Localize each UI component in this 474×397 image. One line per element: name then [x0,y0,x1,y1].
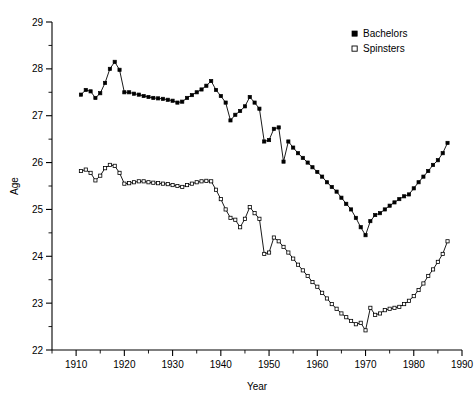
data-point [142,180,145,183]
data-point [229,119,232,122]
data-point [325,297,328,300]
data-point [311,166,314,169]
data-point [378,312,381,315]
data-point [383,208,386,211]
data-point [374,213,377,216]
data-point [292,257,295,260]
data-point [378,212,381,215]
data-point [84,168,87,171]
data-point [272,236,275,239]
data-point [200,88,203,91]
data-point [301,156,304,159]
data-point [388,204,391,207]
data-point [316,285,319,288]
data-point [258,107,261,110]
data-point [190,94,193,97]
data-point [446,240,449,243]
data-point [157,97,160,100]
y-tick-label: 27 [32,110,44,121]
data-point [263,252,266,255]
data-point [205,84,208,87]
data-point [123,91,126,94]
data-point [103,167,106,170]
x-tick-label: 1990 [451,359,474,370]
data-point [128,182,131,185]
data-point [403,195,406,198]
data-point [181,100,184,103]
data-point [210,180,213,183]
chart-container: 2223242526272829 19101920193019401950196… [0,0,474,397]
data-point [306,161,309,164]
data-point [239,226,242,229]
data-point [282,160,285,163]
data-point [152,96,155,99]
data-point [123,182,126,185]
data-point [364,234,367,237]
data-point [354,323,357,326]
data-point [321,175,324,178]
data-point [224,208,227,211]
x-tick-label: 1940 [210,359,233,370]
data-point [277,126,280,129]
data-point [359,226,362,229]
data-point [176,184,179,187]
data-point [195,91,198,94]
data-point [103,81,106,84]
data-point [359,321,362,324]
data-point [292,146,295,149]
data-point [296,152,299,155]
data-point [417,288,420,291]
data-point [287,251,290,254]
data-point [181,185,184,188]
data-point [330,185,333,188]
x-axis-title: Year [247,381,268,392]
legend-label-bachelors: Bachelors [363,28,407,39]
data-point [229,216,232,219]
chart-background [0,0,474,397]
data-point [157,182,160,185]
data-point [118,68,121,71]
data-point [374,313,377,316]
data-point [147,181,150,184]
data-point [267,251,270,254]
data-point [248,95,251,98]
data-point [349,319,352,322]
data-point [79,93,82,96]
data-point [335,190,338,193]
data-point [441,152,444,155]
y-axis-title: Age [9,177,20,195]
x-tick-label: 1960 [306,359,329,370]
data-point [234,218,237,221]
data-point [147,95,150,98]
data-point [185,96,188,99]
data-point [243,105,246,108]
data-point [176,101,179,104]
data-point [108,67,111,70]
data-point [161,182,164,185]
data-point [219,94,222,97]
data-point [89,171,92,174]
data-point [185,183,188,186]
x-tick-label: 1930 [161,359,184,370]
data-point [407,193,410,196]
data-point [436,159,439,162]
y-tick-label: 26 [32,157,44,168]
data-point [417,181,420,184]
data-point [364,329,367,332]
data-point [205,179,208,182]
data-point [369,220,372,223]
data-point [142,94,145,97]
data-point [427,169,430,172]
data-point [200,180,203,183]
data-point [398,198,401,201]
y-tick-label: 23 [32,298,44,309]
x-tick-label: 1920 [113,359,136,370]
data-point [94,96,97,99]
line-chart: 2223242526272829 19101920193019401950196… [0,0,474,397]
y-tick-label: 28 [32,63,44,74]
legend-marker-bachelors [352,31,357,36]
x-tick-label: 1970 [354,359,377,370]
data-point [354,216,357,219]
data-point [137,180,140,183]
data-point [99,174,102,177]
